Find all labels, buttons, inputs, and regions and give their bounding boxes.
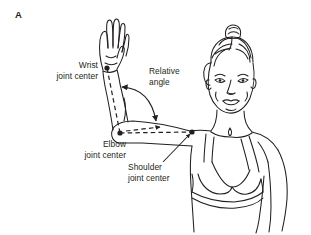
forearm-axis-dashed [107, 68, 120, 133]
bra-bottom-band [192, 192, 263, 202]
wrist-label-line-1: Wrist [14, 60, 98, 71]
upper-arm-axis-dashed [120, 132, 192, 133]
cheek-line-right [245, 92, 247, 101]
hair-bun-detail-2 [229, 28, 238, 30]
elbow-label-line-1: Elbow [40, 139, 126, 150]
left-arm-outer [278, 150, 287, 231]
finger-index [107, 20, 113, 48]
body-outline-group [100, 19, 288, 233]
bra-bottom-band-lower [192, 198, 263, 208]
elbow-joint-marker [117, 130, 122, 135]
pupil-left [219, 79, 222, 82]
panel-letter-a: A [15, 9, 22, 20]
forearm-right-edge [117, 70, 128, 122]
upper-arm-reference-axis-dashed [126, 127, 160, 131]
nose [227, 80, 235, 95]
pupil-right [242, 79, 245, 82]
shoulder-label-line-1: Shoulder [128, 162, 214, 173]
nostril-line [228, 93, 235, 94]
hair-wave-2 [236, 49, 248, 59]
bra-strap-left [204, 134, 206, 162]
elbow-label-line-2: joint center [40, 150, 126, 161]
mouth-upper-lip [223, 100, 239, 101]
relative-angle-label-line-2: angle [149, 77, 219, 88]
shoulder-leader-line [163, 134, 190, 162]
bra-neckline [212, 162, 250, 187]
bra-strap-right [249, 136, 259, 172]
hair-bun-detail-1 [228, 32, 239, 34]
neck-right [244, 111, 252, 132]
figure-panel-a: A Wrist joint center Relative angle Elbo… [0, 0, 311, 235]
wrist-line [103, 70, 117, 72]
elbow-joint-center-label: Elbow joint center [40, 139, 126, 160]
palm-crease-2 [105, 63, 117, 65]
forearm-left-edge [103, 71, 113, 130]
chin-crease [226, 109, 236, 111]
palm-crease-1 [106, 56, 116, 58]
shoulder-joint-marker [189, 129, 194, 134]
cheek-line-left [216, 92, 218, 101]
anatomical-illustration [0, 0, 311, 235]
collarbone-hollow [229, 128, 232, 136]
upper-arm-top-edge [114, 121, 190, 131]
left-arm-inner [268, 162, 271, 232]
mouth-lower-lip [223, 101, 239, 105]
shoulder-label-line-2: joint center [128, 173, 214, 184]
bra-strap-left-inner [212, 137, 214, 162]
wrist-joint-center-label: Wrist joint center [14, 60, 98, 81]
clavicle-left [211, 132, 230, 137]
relative-angle-label-line-1: Relative [149, 66, 219, 77]
left-armpit [258, 142, 268, 162]
shoulder-joint-center-label: Shoulder joint center [128, 162, 214, 183]
bra-strap-right-inner [241, 139, 249, 170]
wrist-joint-marker [104, 65, 109, 70]
eyebrow-right [238, 75, 248, 77]
torso-right-side [256, 176, 264, 233]
shoulder-contour-left [252, 132, 278, 150]
neck-left [211, 110, 217, 131]
bra-side-right [261, 179, 263, 192]
relative-angle-label: Relative angle [149, 66, 219, 87]
wrist-label-line-2: joint center [14, 71, 98, 82]
